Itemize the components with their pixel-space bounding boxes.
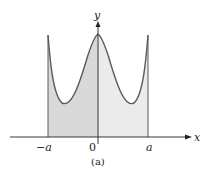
y-axis-label: y: [93, 9, 101, 22]
figure-caption: (a): [91, 156, 105, 167]
tick-label-zero: 0: [89, 141, 96, 154]
tick-label-neg-a: −a: [36, 141, 52, 154]
x-axis-label: x: [194, 131, 201, 144]
tick-label-pos-a: a: [146, 141, 153, 154]
chart: x y −a 0 a (a): [0, 0, 210, 174]
x-axis-arrow-icon: [185, 135, 192, 140]
